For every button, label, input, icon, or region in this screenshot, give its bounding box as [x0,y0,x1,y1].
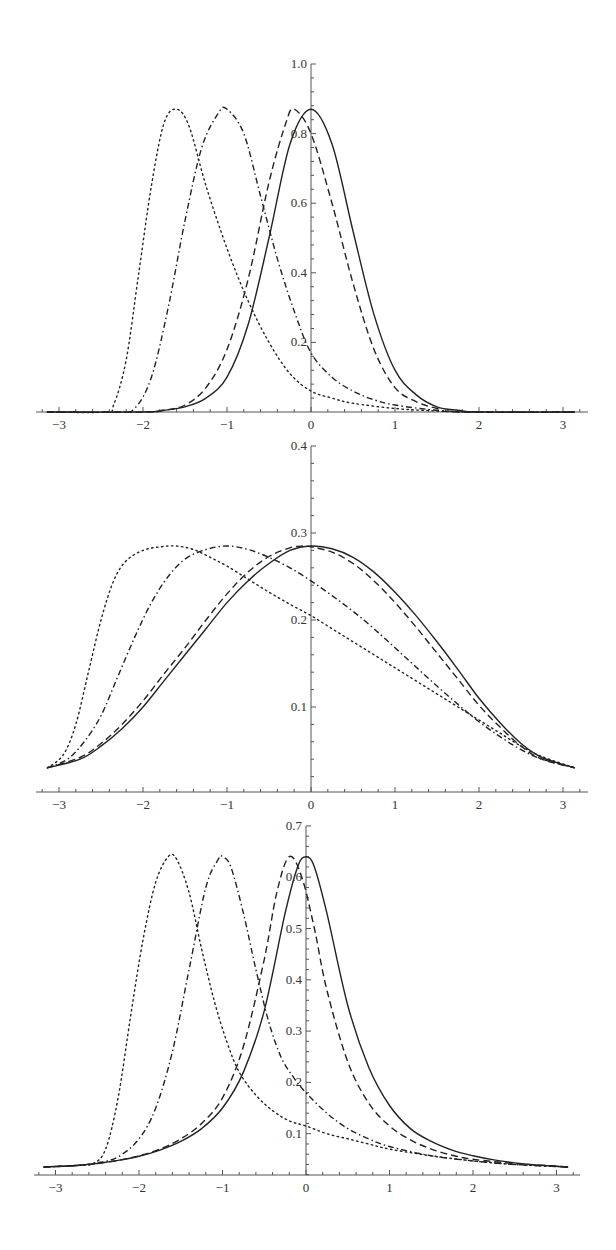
x-tick-label: 3 [560,417,567,432]
x-tick-label: 2 [470,1180,477,1195]
x-tick-label: 3 [553,1180,560,1195]
x-tick-label: 0 [308,417,315,432]
y-tick-label: 0.2 [291,334,307,349]
x-tick-label: 3 [560,797,567,812]
x-tick-label: 1 [386,1180,393,1195]
x-tick-label: 0 [308,797,315,812]
y-tick-label: 1.0 [291,56,307,71]
x-tick-label: 1 [392,797,399,812]
x-tick-label: −1 [220,417,234,432]
x-tick-label: 2 [476,797,483,812]
y-tick-label: 0.3 [291,525,307,540]
y-tick-label: 0.3 [286,1023,302,1038]
x-tick-label: −2 [136,417,150,432]
y-tick-label: 0.6 [291,195,308,210]
x-tick-label: −1 [220,797,234,812]
y-tick-label: 0.4 [291,438,308,453]
y-tick-label: 0.4 [291,265,308,280]
x-tick-label: 2 [476,417,483,432]
y-tick-label: 0.7 [286,818,303,833]
x-tick-label: −2 [132,1180,146,1195]
y-tick-label: 0.1 [291,699,307,714]
y-tick-label: 0.2 [291,612,307,627]
chart-panel-middle: −3−2−101230.10.20.30.4 [36,438,588,812]
figure-canvas: −3−2−101230.20.40.60.81.0 −3−2−101230.10… [0,0,616,1250]
x-tick-label: −3 [52,797,66,812]
y-tick-label: 0.5 [286,921,302,936]
x-tick-label: −3 [49,1180,63,1195]
x-tick-label: 0 [303,1180,310,1195]
x-tick-label: −2 [136,797,150,812]
chart-panel-bottom: −3−2−101230.10.20.30.40.50.60.7 [34,818,580,1195]
chart-panel-top: −3−2−101230.20.40.60.81.0 [36,56,588,432]
x-tick-label: −1 [216,1180,230,1195]
y-tick-label: 0.1 [286,1126,302,1141]
y-tick-label: 0.4 [286,972,303,987]
x-tick-label: 1 [392,417,399,432]
x-tick-label: −3 [52,417,66,432]
